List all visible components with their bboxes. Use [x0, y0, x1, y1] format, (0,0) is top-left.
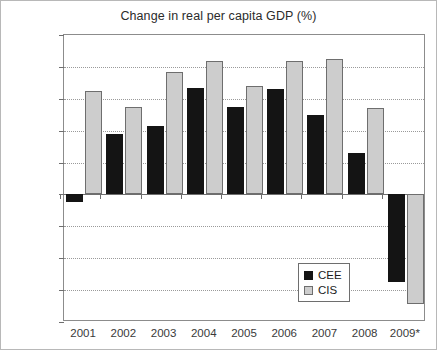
x-axis-tick-mark [100, 194, 101, 199]
legend-item-cee: CEE [304, 268, 342, 283]
legend-item-cis: CIS [304, 283, 342, 298]
y-axis-tick-mark [59, 290, 64, 291]
bar-cis-2006 [286, 61, 303, 195]
legend-swatch-cis-icon [304, 286, 313, 295]
gridline [64, 258, 424, 259]
legend-label-cis: CIS [318, 283, 337, 298]
legend-label-cee: CEE [318, 268, 342, 283]
chart-title: Change in real per capita GDP (%) [1, 9, 436, 23]
bar-cee-2008 [348, 153, 365, 194]
y-axis-tick-mark [59, 99, 64, 100]
bar-cis-2004 [206, 61, 223, 195]
bar-cis-2008 [367, 108, 384, 194]
x-axis-tick-label: 2007 [312, 327, 338, 339]
gridline [64, 67, 424, 68]
y-axis-tick-mark [59, 67, 64, 68]
x-axis-tick-label: 2005 [231, 327, 257, 339]
x-axis-tick-mark [60, 194, 61, 199]
x-axis-tick-label: 2003 [151, 327, 177, 339]
bar-cee-2007 [307, 115, 324, 195]
bar-cee-2002 [106, 134, 123, 195]
x-axis-tick-mark [181, 194, 182, 199]
x-axis-tick-mark [301, 194, 302, 199]
y-axis-tick-mark [59, 35, 64, 36]
x-axis-tick-label: 2009* [390, 327, 420, 339]
x-axis-tick-label: 2004 [191, 327, 217, 339]
x-axis-tick-label: 2001 [70, 327, 96, 339]
bar-cis-2001 [85, 91, 102, 195]
bar-cee-2003 [147, 126, 164, 195]
y-axis-tick-mark [59, 131, 64, 132]
bar-cis-2009 [407, 194, 424, 304]
bar-cee-2004 [187, 88, 204, 195]
bar-cis-2005 [246, 86, 263, 194]
x-axis-tick-label: 2008 [352, 327, 378, 339]
y-axis-tick-mark [59, 163, 64, 164]
x-axis-tick-label: 2002 [111, 327, 137, 339]
chart-legend: CEE CIS [298, 263, 350, 302]
y-axis-tick-mark [59, 322, 64, 323]
bar-cis-2002 [125, 107, 142, 195]
bar-cis-2003 [166, 72, 183, 195]
x-axis-tick-mark [382, 194, 383, 199]
x-axis-tick-mark [342, 194, 343, 199]
bar-cee-2001 [66, 194, 83, 202]
chart-container: Change in real per capita GDP (%) CEE CI… [0, 0, 437, 350]
y-axis-tick-mark [59, 226, 64, 227]
bar-cis-2007 [326, 59, 343, 195]
plot-area [63, 34, 425, 321]
x-axis-tick-mark [261, 194, 262, 199]
y-axis-tick-mark [59, 258, 64, 259]
gridline [64, 99, 424, 100]
bar-cee-2005 [227, 107, 244, 195]
gridline [64, 226, 424, 227]
bar-cee-2006 [267, 89, 284, 194]
zero-axis-line [64, 194, 424, 195]
x-axis-tick-mark [221, 194, 222, 199]
gridline [64, 290, 424, 291]
bar-cee-2009 [388, 194, 405, 282]
legend-swatch-cee-icon [304, 271, 313, 280]
x-axis-tick-mark [141, 194, 142, 199]
x-axis-tick-label: 2006 [271, 327, 297, 339]
